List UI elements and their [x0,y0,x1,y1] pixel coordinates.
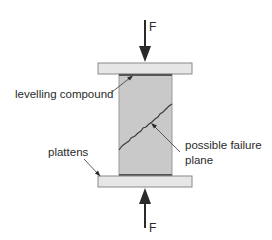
plattens-label: plattens [48,146,89,158]
failure-plane-label-line2: plane [185,154,213,166]
top-platen [98,63,192,74]
plattens-leader [84,159,101,177]
bottom-platen [98,176,192,187]
top-force-label: F [149,20,156,34]
levelling-compound-label: levelling compound [15,88,113,100]
bottom-force-label: F [149,221,156,235]
specimen-column [119,74,172,176]
arrow-head-down-icon [139,46,151,62]
failure-plane-label-line1: possible failure [185,139,262,151]
compression-test-diagram: F F levelling compound possible failure … [0,0,272,240]
top-levelling-compound [119,74,172,76]
